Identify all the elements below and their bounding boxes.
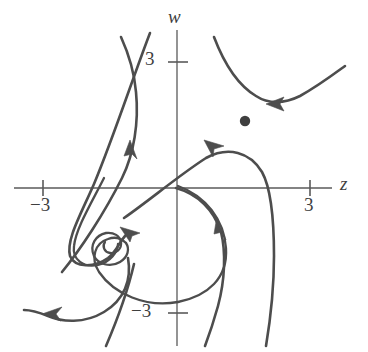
w-axis-tick-label-negative-3: −3 (131, 300, 151, 322)
equilibrium-dot (240, 116, 250, 126)
trajectory-upper-right-u-curve (214, 37, 345, 102)
trajectory-spiral-outward-lower-left (24, 258, 129, 321)
phase-portrait-figure: w z −3 3 3 −3 (0, 0, 368, 352)
axis-group (14, 30, 332, 346)
z-axis-tick-label-positive-3: 3 (304, 194, 314, 216)
trajectory-lower-left-diagonal (106, 264, 134, 346)
arrow-upper-right-u-curve (266, 97, 284, 111)
trajectory-origin-arc-down (176, 188, 224, 346)
w-axis-label: w (168, 6, 181, 28)
z-axis-label: z (340, 173, 347, 195)
phase-portrait-canvas (0, 0, 368, 352)
trajectory-into-spiral-from-lower-left (69, 33, 150, 265)
trajectory-group (24, 33, 345, 346)
z-axis-tick-label-negative-3: −3 (30, 194, 50, 216)
trajectory-spiral-arm-outer (94, 186, 226, 303)
w-axis-tick-label-positive-3: 3 (145, 48, 155, 70)
